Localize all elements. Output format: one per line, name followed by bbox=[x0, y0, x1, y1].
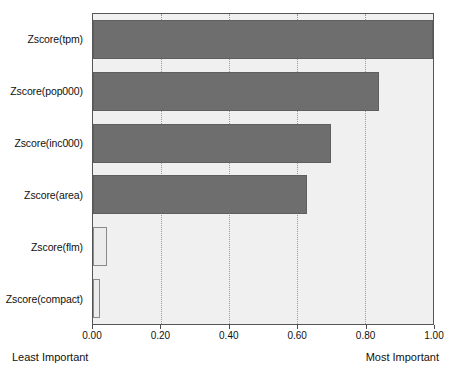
y-axis-tick-label: Zscore(inc000) bbox=[0, 117, 88, 169]
y-axis-tick-label: Zscore(flm) bbox=[0, 221, 88, 273]
bar-band bbox=[93, 117, 433, 169]
bar-band bbox=[93, 169, 433, 221]
x-axis-tick-label: 0.20 bbox=[151, 330, 170, 341]
bar-item bbox=[93, 72, 379, 111]
annotation-most-important: Most Important bbox=[366, 351, 439, 363]
bar-item bbox=[93, 227, 107, 266]
x-axis-tick bbox=[297, 325, 298, 329]
y-axis-tick-label: Zscore(tpm) bbox=[0, 13, 88, 65]
x-axis-tick-label: 0.00 bbox=[82, 330, 101, 341]
bar-chart: Zscore(tpm) Zscore(pop000) Zscore(inc000… bbox=[0, 0, 457, 383]
x-axis-tick bbox=[366, 325, 367, 329]
bar-item bbox=[93, 279, 100, 318]
x-axis-tick-label: 0.40 bbox=[219, 330, 238, 341]
bar-item bbox=[93, 124, 331, 163]
y-axis-category-labels: Zscore(tpm) Zscore(pop000) Zscore(inc000… bbox=[0, 13, 88, 325]
plot-area bbox=[92, 13, 434, 325]
x-axis-tick bbox=[160, 325, 161, 329]
bar-band bbox=[93, 272, 433, 324]
x-axis: 0.000.200.400.600.801.00 bbox=[92, 325, 434, 347]
x-axis-tick-label: 0.80 bbox=[356, 330, 375, 341]
x-axis-tick bbox=[229, 325, 230, 329]
bar-band bbox=[93, 14, 433, 66]
x-axis-tick-label: 1.00 bbox=[424, 330, 443, 341]
bar-band bbox=[93, 66, 433, 118]
x-axis-tick bbox=[92, 325, 93, 329]
y-axis-tick-label: Zscore(pop000) bbox=[0, 65, 88, 117]
x-axis-tick-label: 0.60 bbox=[287, 330, 306, 341]
annotation-least-important: Least Important bbox=[12, 351, 88, 363]
bar-band bbox=[93, 221, 433, 273]
x-axis-tick bbox=[434, 325, 435, 329]
bar-item bbox=[93, 20, 433, 59]
bar-series bbox=[93, 14, 433, 324]
y-axis-tick-label: Zscore(compact) bbox=[0, 273, 88, 325]
y-axis-tick-label: Zscore(area) bbox=[0, 169, 88, 221]
bar-item bbox=[93, 175, 307, 214]
